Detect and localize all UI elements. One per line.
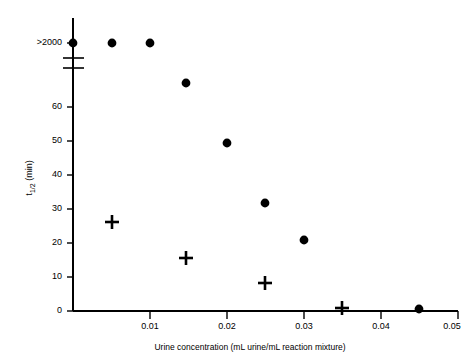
data-point-circle [415,305,424,314]
y-tick-label-40: 40 [52,169,62,179]
x-tick-label-001: 0.01 [141,321,159,331]
data-point-circle [69,39,78,48]
data-point-circle [108,39,117,48]
x-tick-label-002: 0.02 [218,321,236,331]
y-tick-label-50: 50 [52,135,62,145]
y-tick-label-10: 10 [52,271,62,281]
chart-background [0,0,466,364]
data-point-circle [182,79,191,88]
y-tick-label-over2000: >2000 [37,37,62,47]
chart-svg: 0 10 20 30 40 50 60 >2000 0.01 0.02 0.03… [0,0,466,364]
x-axis-title: Urine concentration (mL urine/mL reactio… [154,342,345,352]
data-point-circle [300,236,309,245]
y-tick-label-0: 0 [57,305,62,315]
data-point-circle [146,39,155,48]
y-tick-label-60: 60 [52,101,62,111]
x-tick-label-003: 0.03 [295,321,313,331]
y-tick-label-30: 30 [52,203,62,213]
x-tick-label-004: 0.04 [372,321,390,331]
x-tick-label-005: 0.05 [443,321,461,331]
data-point-circle [261,199,270,208]
y-axis-title-fraction: 1/2 [29,183,36,193]
scatter-plot-figure: 0 10 20 30 40 50 60 >2000 0.01 0.02 0.03… [0,0,466,364]
y-tick-label-20: 20 [52,237,62,247]
y-axis-title-units-text: (min) [24,160,34,181]
data-point-circle [223,139,232,148]
